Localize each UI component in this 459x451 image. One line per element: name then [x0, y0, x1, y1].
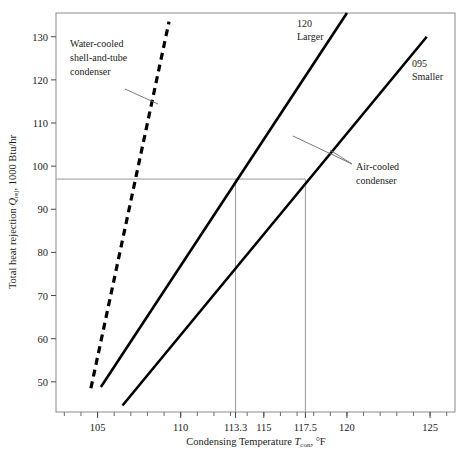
y-axis-title: Total heat rejection Qrej, 1000 Btu/hr [7, 134, 20, 289]
annotation-water-cooled-line1: Water-cooled [70, 38, 123, 49]
y-tick-label: 120 [32, 75, 48, 86]
annotation-curve-095-model: 095 [412, 58, 427, 69]
annotation-water-cooled-line3: condenser [70, 66, 111, 77]
chart-figure: 105110113.3115117.5120125506070809010011… [0, 0, 459, 451]
x-tick-label: 105 [90, 422, 106, 433]
annotation-curve-095-size: Smaller [412, 71, 444, 82]
y-tick-label: 80 [38, 247, 49, 258]
x-axis-title: Condensing Temperature Tcon, °F [186, 436, 326, 449]
y-tick-label: 110 [33, 118, 48, 129]
y-tick-label: 50 [38, 377, 49, 388]
y-tick-label: 90 [38, 204, 49, 215]
x-tick-label: 115 [256, 422, 271, 433]
heat-rejection-chart: 105110113.3115117.5120125506070809010011… [0, 0, 459, 451]
y-tick-label: 130 [32, 32, 48, 43]
y-tick-label: 70 [38, 291, 49, 302]
annotation-curve-120-model: 120 [297, 18, 312, 29]
annotation-air-cooled-line1: Air-cooled [356, 161, 399, 172]
y-tick-label: 60 [38, 334, 49, 345]
x-tick-label: 110 [173, 422, 188, 433]
x-tick-label: 117.5 [294, 422, 317, 433]
x-tick-label: 120 [339, 422, 355, 433]
plot-frame [56, 13, 455, 412]
x-tick-label: 113.3 [224, 422, 247, 433]
annotation-air-cooled-line2: condenser [356, 175, 397, 186]
annotation-water-cooled-line2: shell-and-tube [70, 52, 128, 63]
x-tick-label: 125 [422, 422, 438, 433]
annotation-curve-120-size: Larger [297, 31, 324, 42]
y-tick-label: 100 [32, 161, 48, 172]
